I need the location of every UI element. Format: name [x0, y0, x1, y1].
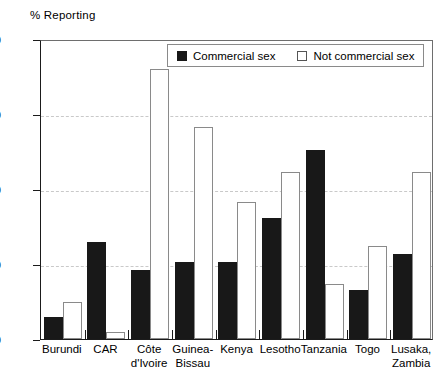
- x-tick-mark: [128, 330, 129, 339]
- x-tick-mark: [303, 330, 304, 339]
- x-tick-mark: [172, 330, 173, 339]
- y-tick-mark: [33, 340, 40, 341]
- y-tick-mark: [33, 40, 40, 41]
- bar-not-commercial-sex: [63, 302, 82, 340]
- y-tick-mark: [33, 265, 40, 266]
- x-tick-label: Tanzania: [301, 343, 347, 357]
- bar-not-commercial-sex: [194, 127, 213, 339]
- x-tick-label: Lusaka,Zambia: [391, 343, 431, 370]
- bar-group: [172, 41, 216, 339]
- bars-layer: [41, 41, 432, 339]
- bar-group: [128, 41, 172, 339]
- bar-commercial-sex: [44, 317, 63, 340]
- bar-commercial-sex: [87, 242, 106, 340]
- x-tick-label: Guinea-Bissau: [172, 343, 213, 370]
- bar-not-commercial-sex: [106, 332, 125, 340]
- y-tick-label: 10: [0, 259, 1, 271]
- bar-not-commercial-sex: [150, 69, 169, 339]
- bar-not-commercial-sex: [325, 284, 344, 339]
- x-tick-label: Togo: [355, 343, 380, 357]
- bar-group: [85, 41, 129, 339]
- chart-legend: Commercial sexNot commercial sex: [167, 44, 424, 67]
- bar-commercial-sex: [306, 150, 325, 339]
- bar-commercial-sex: [349, 290, 368, 339]
- legend-entry: Not commercial sex: [297, 50, 414, 62]
- bar-group: [347, 41, 391, 339]
- y-tick-label: 30: [0, 109, 1, 121]
- legend-swatch-icon: [177, 51, 187, 61]
- x-tick-label: Burundi: [42, 343, 82, 357]
- bar-group: [216, 41, 260, 339]
- bar-commercial-sex: [393, 254, 412, 340]
- bar-group: [390, 41, 434, 339]
- bar-commercial-sex: [262, 218, 281, 340]
- legend-swatch-icon: [297, 51, 307, 61]
- plot-area: [40, 40, 433, 340]
- legend-entry: Commercial sex: [177, 50, 275, 62]
- x-tick-mark: [347, 330, 348, 339]
- x-axis-labels: BurundiCARCôted'IvoireGuinea-BissauKenya…: [40, 343, 433, 386]
- bar-chart: % Reporting 010203040 BurundiCARCôted'Iv…: [0, 0, 446, 386]
- x-tick-label: Kenya: [220, 343, 253, 357]
- y-tick-label: 20: [0, 184, 1, 196]
- y-tick-label: 40: [0, 34, 1, 46]
- bar-not-commercial-sex: [368, 246, 387, 339]
- x-tick-label: Côted'Ivoire: [131, 343, 168, 370]
- legend-label: Not commercial sex: [313, 50, 414, 62]
- y-tick-label: 0: [0, 334, 1, 346]
- legend-label: Commercial sex: [193, 50, 275, 62]
- bar-group: [41, 41, 85, 339]
- bar-not-commercial-sex: [281, 172, 300, 339]
- x-tick-mark: [85, 330, 86, 339]
- bar-not-commercial-sex: [412, 172, 431, 339]
- bar-group: [303, 41, 347, 339]
- y-tick-mark: [33, 190, 40, 191]
- y-tick-mark: [33, 115, 40, 116]
- x-tick-mark: [259, 330, 260, 339]
- x-tick-label: Lesotho: [260, 343, 301, 357]
- x-tick-mark: [216, 330, 217, 339]
- bar-commercial-sex: [175, 262, 194, 339]
- bar-not-commercial-sex: [237, 202, 256, 339]
- x-tick-mark: [390, 330, 391, 339]
- chart-title: % Reporting: [30, 9, 95, 21]
- bar-group: [259, 41, 303, 339]
- bar-commercial-sex: [131, 270, 150, 339]
- bar-commercial-sex: [218, 262, 237, 339]
- x-tick-label: CAR: [93, 343, 117, 357]
